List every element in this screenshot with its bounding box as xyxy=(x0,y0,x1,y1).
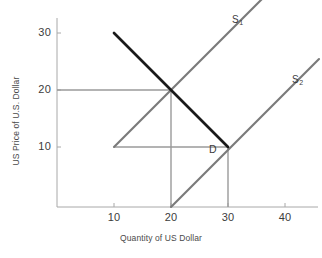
supply-demand-chart: 30 20 10 10 20 30 40 Quantity of US Doll… xyxy=(0,0,322,258)
y-axis-title: US Price of U.S. Dollar xyxy=(11,69,21,173)
series-label-s1: S1 xyxy=(232,14,243,25)
x-axis-ticks xyxy=(114,203,285,207)
x-axis-title: Quantity of US Dollar xyxy=(0,233,322,243)
series-label-s2: S2 xyxy=(292,74,303,85)
y-tick-label-30: 30 xyxy=(25,26,51,38)
x-tick-label-10: 10 xyxy=(101,211,127,223)
guide-lines xyxy=(57,90,228,207)
x-tick-label-40: 40 xyxy=(272,211,298,223)
series-label-s1-subscript: 1 xyxy=(239,19,243,26)
supply-curve-s1 xyxy=(114,0,268,147)
x-tick-label-20: 20 xyxy=(158,211,184,223)
y-tick-label-20: 20 xyxy=(25,83,51,95)
x-tick-label-30: 30 xyxy=(215,211,241,223)
y-tick-label-10: 10 xyxy=(25,140,51,152)
series-label-s2-subscript: 2 xyxy=(299,79,303,86)
axis-lines xyxy=(57,18,318,207)
series-label-s1-base: S xyxy=(232,14,239,25)
series-label-s2-base: S xyxy=(292,74,299,85)
series-label-d: D xyxy=(209,143,217,155)
